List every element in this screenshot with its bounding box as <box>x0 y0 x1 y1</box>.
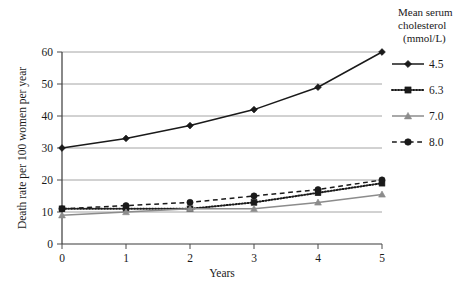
series-7-0 <box>59 191 386 218</box>
data-point-diamond-marker <box>251 106 258 113</box>
series-line <box>62 180 382 209</box>
data-point-diamond-marker <box>404 60 411 67</box>
x-tick-marks <box>62 244 382 249</box>
data-series-group <box>59 49 386 218</box>
gridlines <box>62 52 382 212</box>
x-tick-label: 4 <box>315 252 321 264</box>
data-point-circle-marker <box>379 177 385 183</box>
series-4-5 <box>59 49 386 152</box>
y-tick-label: 10 <box>42 206 54 218</box>
legend-item-8-0[interactable]: 8.0 <box>392 136 444 148</box>
x-tick-label: 3 <box>251 252 257 264</box>
y-tick-label: 40 <box>42 110 54 122</box>
legend: Mean serum cholesterol (mmol/L) 4.56.37.… <box>392 6 453 148</box>
x-tick-label: 0 <box>59 252 65 264</box>
data-point-diamond-marker <box>379 49 386 56</box>
x-tick-label: 5 <box>379 252 385 264</box>
legend-title-line-2: cholesterol <box>398 19 446 31</box>
data-point-circle-marker <box>59 206 65 212</box>
data-point-diamond-marker <box>315 84 322 91</box>
data-point-circle-marker <box>187 199 193 205</box>
x-tick-labels: 012345 <box>59 252 385 264</box>
y-tick-label: 50 <box>42 78 54 90</box>
legend-item-6-3[interactable]: 6.3 <box>392 84 444 96</box>
y-tick-label: 30 <box>42 142 54 154</box>
y-tick-label: 20 <box>42 174 54 186</box>
y-tick-label: 60 <box>42 46 54 58</box>
data-point-diamond-marker <box>123 135 130 142</box>
x-tick-label: 2 <box>187 252 193 264</box>
y-tick-label: 0 <box>47 238 53 250</box>
data-point-diamond-marker <box>187 122 194 129</box>
legend-item-7-0[interactable]: 7.0 <box>392 110 444 122</box>
data-point-circle-marker <box>123 202 129 208</box>
x-tick-label: 1 <box>123 252 129 264</box>
legend-entries: 4.56.37.08.0 <box>392 58 444 148</box>
line-chart: 0102030405060 012345 Death rate per 100 … <box>0 0 472 296</box>
legend-label: 7.0 <box>429 110 444 122</box>
legend-label: 8.0 <box>429 136 444 148</box>
legend-item-4-5[interactable]: 4.5 <box>392 58 444 70</box>
legend-title-line-1: Mean serum <box>398 6 453 18</box>
series-line <box>62 52 382 148</box>
series-8-0 <box>59 177 385 212</box>
y-tick-labels: 0102030405060 <box>42 46 54 250</box>
data-point-circle-marker <box>315 186 321 192</box>
data-point-diamond-marker <box>59 145 66 152</box>
data-point-circle-marker <box>251 193 257 199</box>
data-point-square-marker <box>405 87 411 93</box>
legend-title-line-3: (mmol/L) <box>403 32 446 45</box>
legend-label: 6.3 <box>429 84 444 96</box>
y-axis-title: Death rate per 100 women per year <box>16 67 29 229</box>
data-point-square-marker <box>251 200 257 206</box>
chart-container: 0102030405060 012345 Death rate per 100 … <box>0 0 472 296</box>
data-point-circle-marker <box>405 139 412 146</box>
legend-label: 4.5 <box>429 58 444 70</box>
x-axis-title: Years <box>209 267 235 279</box>
